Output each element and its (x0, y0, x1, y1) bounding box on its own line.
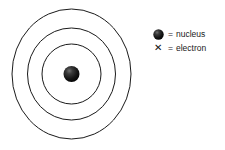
atom-diagram-page: = nucleus ✕ = electron (0, 0, 225, 150)
nucleus-dot-svg (153, 29, 164, 40)
legend: = nucleus ✕ = electron (152, 27, 224, 55)
electron-x-glyph: ✕ (154, 43, 162, 53)
legend-item-electron: ✕ = electron (152, 41, 224, 55)
legend-equals-electron: = (164, 44, 176, 53)
legend-label-electron: electron (176, 44, 206, 53)
atom-diagram (0, 0, 145, 150)
atom-svg (0, 0, 145, 150)
nucleus-sphere (64, 66, 80, 82)
legend-equals-nucleus: = (164, 30, 176, 39)
electron-x-icon: ✕ (152, 42, 164, 54)
legend-item-nucleus: = nucleus (152, 27, 224, 41)
legend-label-nucleus: nucleus (176, 30, 205, 39)
nucleus-dot-icon (152, 28, 164, 40)
